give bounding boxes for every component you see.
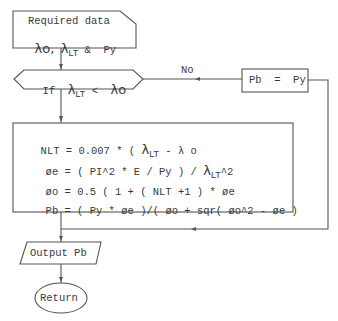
arrowhead-icon [191, 227, 196, 231]
arrowhead-icon [59, 116, 63, 122]
pb-mid3: o^2 - [235, 205, 273, 217]
if-text: If [43, 85, 56, 97]
input-box-line2: λo, λLT & Py [22, 31, 116, 59]
terminal-text: Return [40, 292, 78, 304]
amp-py-text: & Py [78, 44, 116, 56]
lambda-symbol: λ [68, 82, 76, 97]
process-line-pb: Pb = ( Py * øe )/( øo + sqr( øo^2 - øe ) [33, 192, 298, 217]
decision-label: If λLT < λo [30, 72, 126, 100]
assign-box-text: Pb = Py [249, 74, 306, 86]
no-branch-label: No [181, 64, 194, 76]
output-box-text: Output Pb [30, 247, 87, 259]
arrowhead-icon [59, 236, 63, 241]
pb-pre: Pb = ( Py * [46, 205, 122, 217]
input-box-line1: Required data [28, 15, 110, 27]
lambda-o-symbol: λo [111, 82, 127, 97]
arrowhead-icon [195, 77, 200, 81]
lambda-o-symbol: λo, [35, 41, 55, 56]
lt-subscript: LT [68, 48, 78, 58]
pb-mid: e )/( [128, 205, 166, 217]
arrowhead-icon [59, 277, 63, 282]
arrowhead-icon [59, 64, 63, 69]
pb-post: e ) [279, 205, 298, 217]
lt-subscript: LT [76, 89, 86, 99]
less-than-operator: < [92, 85, 98, 97]
pb-mid2: o + sqr( [172, 205, 229, 217]
